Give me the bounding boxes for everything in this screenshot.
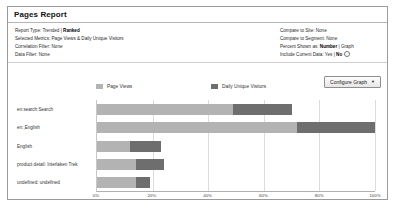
metadata-value-bold: Ranked [63,28,80,33]
stacked-bar[interactable] [97,122,375,133]
metadata-row: Selected Metrics: Page Views & Daily Uni… [15,35,124,43]
metadata-row: Correlation Filter: None [15,43,124,51]
pages-report-panel: Pages Report Report Type: Trended | Rank… [7,6,388,200]
y-axis-label: undefined: undefined [17,177,91,188]
x-axis-tick-label: 0% [93,193,99,198]
legend-item-daily-unique-visitors: Daily Unique Visitors [211,84,266,89]
stacked-bar[interactable] [97,159,164,170]
metadata-column-right: Compare to Site: NoneCompare to Segment:… [280,27,354,59]
bar-segment[interactable] [97,104,233,115]
bar-chart-plot-area: en:search:Searchen:,EnglishEnglishproduc… [96,100,375,192]
stacked-bar[interactable] [97,141,161,152]
chart-bar-row: product detail: Interlaken Trek [97,159,375,170]
metadata-value: Yes | [325,52,336,57]
metadata-label: Data Filter: [15,52,39,57]
chart-legend: Page Views Daily Unique Visitors [8,84,387,96]
y-axis-label: English [17,141,91,152]
metadata-value-bold: No [336,52,342,57]
stacked-bar[interactable] [97,177,150,188]
legend-label-daily-unique-visitors: Daily Unique Visitors [222,84,266,89]
metadata-label: Compare to Site: [280,28,316,33]
metadata-label: Report Type: [15,28,42,33]
bar-segment[interactable] [136,159,164,170]
legend-swatch-daily-unique-visitors [211,84,218,89]
stacked-bar[interactable] [97,104,292,115]
metadata-value: None [52,44,63,49]
chart-bar-row: en:,English [97,122,375,133]
metadata-value-bold: Number [320,44,337,49]
metadata-row: Compare to Site: None [280,27,354,35]
metadata-label: Include Current Data: [280,52,325,57]
bar-segment[interactable] [233,104,291,115]
metadata-row: Report Type: Trended | Ranked [15,27,124,35]
metadata-row: Compare to Segment: None [280,35,354,43]
metadata-value: None [316,28,327,33]
metadata-value: | Graph [337,44,354,49]
metadata-row: Percent Shown as: Number | Graph [280,43,354,51]
metadata-value: Trended | [42,28,63,33]
metadata-label: Correlation Filter: [15,44,52,49]
bar-segment[interactable] [130,141,161,152]
metadata-label: Compare to Segment: [280,36,326,41]
chart-x-axis: 0%20%40%60%80%100% [96,193,375,203]
chart-bar-row: en:search:Search [97,104,375,115]
bar-segment[interactable] [97,122,297,133]
metadata-value: None [39,52,50,57]
x-axis-tick-label: 20% [147,193,156,198]
legend-item-page-views: Page Views [96,84,132,89]
bar-segment[interactable] [136,177,150,188]
metadata-row: Include Current Data: Yes | No [280,51,354,59]
bar-segment[interactable] [97,177,136,188]
x-axis-tick-label: 60% [259,193,268,198]
legend-swatch-page-views [96,84,103,89]
x-axis-tick-label: 40% [203,193,212,198]
y-axis-label: en:,English [17,122,91,133]
chart-bar-rows: en:search:Searchen:,EnglishEnglishproduc… [97,100,375,191]
metadata-value: None [326,36,337,41]
metadata-label: Selected Metrics: [15,36,52,41]
metadata-value: Page Views & Daily Unique Visitors [52,36,124,41]
metadata-column-left: Report Type: Trended | RankedSelected Me… [15,27,124,59]
metadata-label: Percent Shown as: [280,44,320,49]
info-radio-icon[interactable] [344,51,350,57]
bar-segment[interactable] [297,122,375,133]
gridline [375,100,376,191]
bar-segment[interactable] [97,159,136,170]
y-axis-label: en:search:Search [17,104,91,115]
chart-bar-row: English [97,141,375,152]
report-metadata: Report Type: Trended | RankedSelected Me… [8,23,387,63]
metadata-row: Data Filter: None [15,51,124,59]
x-axis-tick-label: 80% [315,193,324,198]
legend-label-page-views: Page Views [107,84,132,89]
panel-titlebar: Pages Report [8,7,387,23]
chart-bar-row: undefined: undefined [97,177,375,188]
page-title: Pages Report [14,10,67,19]
y-axis-label: product detail: Interlaken Trek [17,159,91,170]
x-axis-tick-label: 100% [369,193,380,198]
bar-segment[interactable] [97,141,130,152]
